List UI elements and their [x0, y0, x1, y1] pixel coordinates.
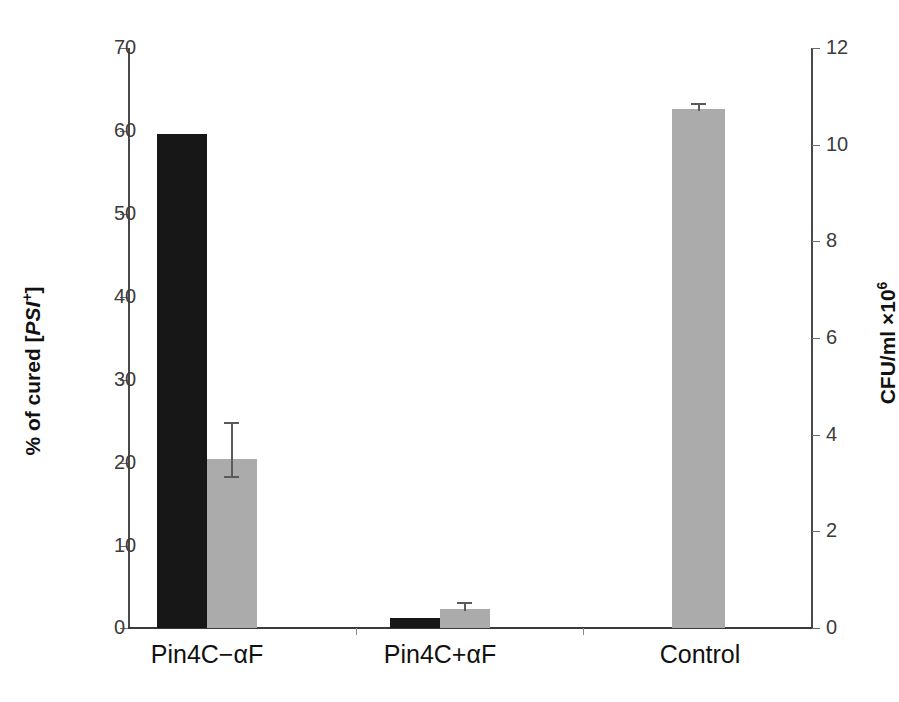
bar-pin4c-plus-af-percent: [390, 618, 440, 628]
right-axis-title: CFU/ml ×106: [874, 193, 899, 493]
x-separator-tick-2: [583, 628, 584, 635]
x-separator-tick-1: [356, 628, 357, 635]
errorbar-line-control: [698, 105, 700, 111]
errorbar-line-pin4c-minus-af: [231, 424, 233, 478]
errorbar-line-pin4c-plus-af: [464, 604, 466, 611]
left-axis-title-sup: +: [19, 293, 35, 301]
right-tick-8: [812, 241, 820, 242]
errorbar-cap-bottom-pin4c-minus-af: [224, 476, 239, 478]
left-axis-title: % of cured [PSI+]: [19, 221, 45, 521]
right-tick-10: [812, 145, 820, 146]
bar-control-cfu: [672, 109, 725, 628]
x-category-label-pin4c-minus-af: Pin4C−αF: [102, 640, 312, 669]
right-tick-label-6: 6: [826, 326, 837, 349]
errorbar-cap-top-pin4c-plus-af: [457, 602, 472, 604]
bar-pin4c-plus-af-cfu: [440, 609, 490, 628]
right-tick-4: [812, 435, 820, 436]
right-tick-label-2: 2: [826, 519, 837, 542]
bar-pin4c-minus-af-cfu: [207, 459, 257, 628]
right-tick-0: [812, 628, 820, 629]
right-tick-label-8: 8: [826, 229, 837, 252]
plot-area: [128, 48, 812, 628]
errorbar-cap-top-pin4c-minus-af: [224, 422, 239, 424]
right-tick-2: [812, 531, 820, 532]
errorbar-cap-top-control: [691, 103, 706, 105]
left-axis-title-italic: PSI: [21, 302, 44, 336]
left-tick-label-0: 0: [114, 616, 125, 639]
right-tick-label-10: 10: [826, 133, 848, 156]
x-category-label-control: Control: [595, 640, 805, 669]
right-axis-title-sup: 6: [874, 282, 890, 290]
bar-pin4c-minus-af-percent: [157, 134, 207, 628]
left-axis-title-post: ]: [21, 286, 44, 293]
right-tick-label-4: 4: [826, 423, 837, 446]
x-category-label-pin4c-plus-af: Pin4C+αF: [335, 640, 545, 669]
chart-figure: 70 60 50 40 30 20 10 0 12 10 8 6 4 2 0 %…: [0, 0, 899, 702]
right-tick-label-12: 12: [826, 36, 848, 59]
right-tick-label-0: 0: [826, 616, 837, 639]
left-axis-title-pre: % of cured [: [21, 335, 44, 455]
right-tick-6: [812, 338, 820, 339]
right-axis-title-pre: CFU/ml ×10: [876, 289, 899, 404]
right-tick-12: [812, 48, 820, 49]
